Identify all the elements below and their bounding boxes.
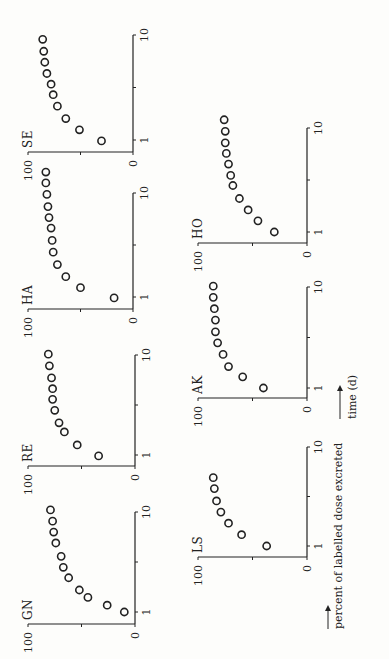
data-point xyxy=(254,217,261,224)
rotated-figure: 1000110GN1000110RE1000110HA1000110SE1000… xyxy=(0,0,389,659)
data-point xyxy=(42,168,49,175)
data-point xyxy=(39,36,46,43)
data-point xyxy=(65,574,72,581)
x-tick-label-1: 1 xyxy=(138,137,151,144)
panel-re: 1000110RE xyxy=(21,348,153,495)
data-point xyxy=(48,81,55,88)
x-tick-label-10: 10 xyxy=(140,348,153,362)
y-tick-label-0: 0 xyxy=(301,406,314,413)
data-point xyxy=(43,70,50,77)
x-axis-arrow-head xyxy=(337,385,343,391)
data-point xyxy=(45,351,52,358)
x-tick-label-10: 10 xyxy=(312,280,325,294)
panel-title: RE xyxy=(21,443,35,462)
y-tick-label-0: 0 xyxy=(127,317,140,324)
panel-ha: 1000110HA xyxy=(21,168,151,338)
x-tick-label-1: 1 xyxy=(140,452,153,459)
data-point xyxy=(211,305,218,312)
data-point xyxy=(44,203,51,210)
y-tick-label-100: 100 xyxy=(192,251,205,272)
data-point xyxy=(74,441,81,448)
x-tick-label-1: 1 xyxy=(312,543,325,550)
data-point xyxy=(43,191,50,198)
x-tick-label-1: 1 xyxy=(138,294,151,301)
panel-ho: 1000110HO xyxy=(191,116,325,272)
data-point xyxy=(62,115,69,122)
data-point xyxy=(76,126,83,133)
data-point xyxy=(76,586,83,593)
x-axis-title: time (d) xyxy=(337,375,359,419)
data-point xyxy=(48,374,55,381)
x-tick-label-1: 1 xyxy=(312,385,325,392)
data-point xyxy=(49,237,56,244)
data-point xyxy=(50,249,57,256)
scatter-panels: 1000110GN1000110RE1000110HA1000110SE1000… xyxy=(0,0,389,659)
y-tick-label-100: 100 xyxy=(22,317,35,338)
data-point xyxy=(219,351,226,358)
data-point xyxy=(49,385,56,392)
data-point xyxy=(271,228,278,235)
data-point xyxy=(49,396,56,403)
data-point xyxy=(98,137,105,144)
x-tick-label-1: 1 xyxy=(140,609,153,616)
data-point xyxy=(213,497,220,504)
data-point xyxy=(263,542,270,549)
data-point xyxy=(229,182,236,189)
data-point xyxy=(222,128,229,135)
data-point xyxy=(121,608,128,615)
panel-ak: 1000110AK xyxy=(191,280,325,427)
data-point xyxy=(62,273,69,280)
data-point xyxy=(222,139,229,146)
data-point xyxy=(210,474,217,481)
data-point xyxy=(61,428,68,435)
data-point xyxy=(225,363,232,370)
x-tick-label-10: 10 xyxy=(312,440,325,454)
data-point xyxy=(40,48,47,55)
data-point xyxy=(46,362,53,369)
panel-title: HA xyxy=(21,285,35,305)
panel-title: SE xyxy=(21,130,35,148)
data-point xyxy=(54,103,61,110)
panel-gn: 1000110GN xyxy=(21,505,153,653)
x-tick-label-10: 10 xyxy=(138,28,151,42)
data-point xyxy=(48,224,55,231)
data-point xyxy=(236,195,243,202)
y-tick-label-0: 0 xyxy=(127,160,140,167)
data-point xyxy=(212,317,219,324)
data-point xyxy=(41,59,48,66)
data-point xyxy=(47,506,54,513)
panel-title: HO xyxy=(191,218,205,239)
data-point xyxy=(260,384,267,391)
y-axis-title: percent of labelled dose excreted xyxy=(325,443,345,629)
data-point xyxy=(42,179,49,186)
x-tick-label-10: 10 xyxy=(140,505,153,519)
panel-se: 1000110SE xyxy=(21,28,151,181)
data-point xyxy=(77,284,84,291)
data-point xyxy=(217,509,224,516)
y-tick-label-0: 0 xyxy=(129,474,142,481)
data-point xyxy=(238,531,245,538)
data-point xyxy=(245,206,252,213)
y-tick-label-100: 100 xyxy=(22,474,35,495)
data-point xyxy=(210,283,217,290)
y-tick-label-0: 0 xyxy=(301,251,314,258)
data-point xyxy=(51,407,58,414)
data-point xyxy=(84,594,91,601)
data-point xyxy=(50,91,57,98)
panel-title: LS xyxy=(191,536,205,553)
panel-title: AK xyxy=(191,375,205,395)
data-point xyxy=(49,518,56,525)
data-point xyxy=(111,294,118,301)
panel-group: 1000110GN1000110RE1000110HA1000110SE1000… xyxy=(21,28,325,653)
data-point xyxy=(210,294,217,301)
data-point xyxy=(104,602,111,609)
data-point xyxy=(60,564,67,571)
y-tick-label-0: 0 xyxy=(129,632,142,639)
data-point xyxy=(211,485,218,492)
data-point xyxy=(221,116,228,123)
data-point xyxy=(54,261,61,268)
figure-stage: 1000110GN1000110RE1000110HA1000110SE1000… xyxy=(0,0,389,659)
data-point xyxy=(214,339,221,346)
y-tick-label-100: 100 xyxy=(192,565,205,586)
panel-title: GN xyxy=(21,599,35,620)
